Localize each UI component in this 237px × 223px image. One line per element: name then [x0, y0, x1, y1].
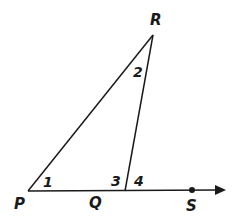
segment-pr [28, 35, 153, 191]
arrowhead-icon [215, 185, 226, 195]
label-s: S [186, 197, 197, 215]
label-q: Q [89, 194, 102, 212]
angle-2-label: 2 [133, 64, 143, 80]
angle-1-label: 1 [43, 174, 53, 190]
geometry-diagram: R P Q S 2 1 3 4 [0, 0, 237, 223]
label-p: P [14, 195, 25, 213]
angle-4-label: 4 [133, 173, 144, 189]
label-r: R [150, 11, 162, 29]
segment-rq [125, 35, 153, 191]
angle-3-label: 3 [111, 173, 121, 189]
point-s-dot [189, 187, 195, 193]
